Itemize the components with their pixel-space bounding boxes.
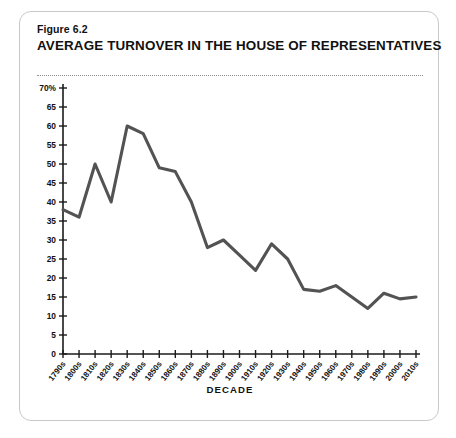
y-tick-label: 10 <box>47 311 57 321</box>
chart-plot-area: 0510152025303540455055606570% 1790s1800s… <box>20 12 440 422</box>
y-tick-label: 60 <box>47 121 57 131</box>
y-tick-label: 5 <box>51 330 56 340</box>
y-tick-label: 30 <box>47 235 57 245</box>
y-tick-label: 25 <box>47 254 57 264</box>
x-axis: 1790s1800s1810s1820s1830s1840s1850s1860s… <box>47 350 421 383</box>
y-tick-label: 70% <box>39 83 56 93</box>
y-tick-label: 20 <box>47 273 57 283</box>
figure-card: Figure 6.2 AVERAGE TURNOVER IN THE HOUSE… <box>19 11 439 421</box>
y-tick-label: 40 <box>47 197 57 207</box>
y-tick-label: 55 <box>47 140 57 150</box>
x-tick-label: 2010s <box>400 359 421 383</box>
x-axis-title: DECADE <box>20 384 440 395</box>
y-tick-label: 35 <box>47 216 57 226</box>
y-tick-label: 15 <box>47 292 57 302</box>
y-tick-label: 0 <box>51 349 56 359</box>
y-tick-label: 65 <box>47 102 57 112</box>
y-tick-label: 45 <box>47 178 57 188</box>
turnover-line-chart: 0510152025303540455055606570% 1790s1800s… <box>20 12 440 422</box>
y-tick-label: 50 <box>47 159 57 169</box>
turnover-series-line <box>63 126 416 308</box>
